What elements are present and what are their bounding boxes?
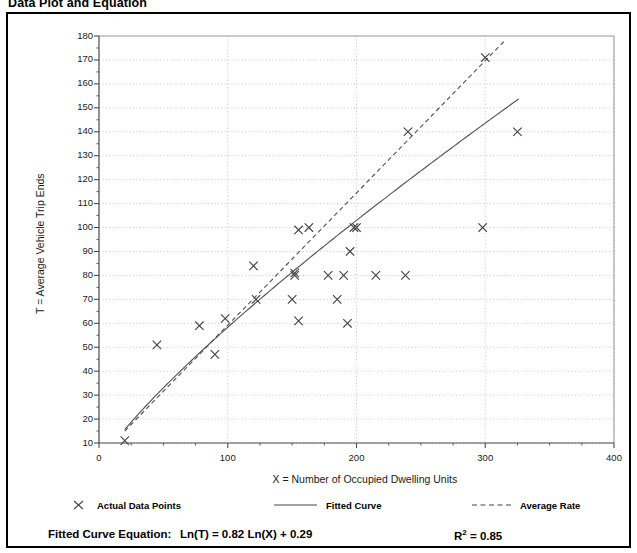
legend-label: Average Rate (520, 500, 580, 511)
equation-label: Fitted Curve Equation: (48, 528, 171, 540)
y-tick-label: 160 (55, 77, 93, 88)
equation-expression: Ln(T) = 0.82 Ln(X) + 0.29 (180, 528, 312, 540)
y-tick-label: 140 (55, 125, 93, 136)
legend-item-average-rate: Average Rate (471, 499, 580, 511)
legend-label: Fitted Curve (326, 500, 381, 511)
figure-frame: 1020304050607080901001101201301401501601… (6, 12, 631, 548)
y-tick-label: 20 (55, 413, 93, 424)
legend-item-fitted-curve: Fitted Curve (273, 499, 381, 511)
y-tick-label: 70 (55, 293, 93, 304)
y-axis-title: T = Average Vehicle Trip Ends (34, 173, 46, 314)
x-tick-label: 400 (594, 452, 634, 463)
x-marker-icon (70, 499, 90, 511)
r-squared-annotation: R2 = 0.85 (454, 528, 502, 542)
y-tick-label: 130 (55, 149, 93, 160)
x-tick-label: 300 (465, 452, 505, 463)
x-tick-label: 200 (337, 452, 377, 463)
x-axis-title: X = Number of Occupied Dwelling Units (273, 473, 458, 485)
chart-figure: Data Plot and Equation 10203040506070809… (0, 0, 637, 553)
y-tick-label: 10 (55, 437, 93, 448)
y-tick-label: 120 (55, 173, 93, 184)
y-tick-label: 80 (55, 269, 93, 280)
r-squared-value: = 0.85 (470, 530, 502, 542)
legend-item-actual-data-points: Actual Data Points (70, 499, 181, 511)
x-tick-label: 0 (79, 452, 119, 463)
dashed-line-icon (471, 499, 513, 511)
y-tick-label: 180 (55, 30, 93, 41)
y-tick-label: 90 (55, 245, 93, 256)
y-tick-label: 170 (55, 53, 93, 64)
plot-area: 1020304050607080901001101201301401501601… (8, 14, 633, 504)
r-squared-exponent: 2 (462, 528, 466, 537)
y-tick-label: 40 (55, 365, 93, 376)
plot-canvas (8, 14, 633, 504)
y-tick-label: 110 (55, 197, 93, 208)
legend-label: Actual Data Points (97, 500, 181, 511)
solid-line-icon (273, 499, 319, 511)
x-tick-label: 100 (208, 452, 248, 463)
chart-legend: Actual Data Points Fitted Curve Average … (8, 497, 633, 523)
y-tick-label: 60 (55, 317, 93, 328)
y-tick-label: 150 (55, 101, 93, 112)
y-tick-label: 50 (55, 341, 93, 352)
y-tick-label: 30 (55, 389, 93, 400)
equation-row: Fitted Curve Equation: Ln(T) = 0.82 Ln(X… (8, 526, 633, 552)
figure-title: Data Plot and Equation (8, 0, 147, 10)
y-tick-label: 100 (55, 221, 93, 232)
